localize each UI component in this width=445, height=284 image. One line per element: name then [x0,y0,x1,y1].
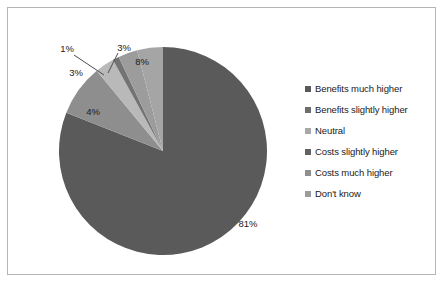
legend-item-label: Don't know [315,189,361,199]
slice-label-4: 4% [86,106,100,117]
pie-chart-svg[interactable]: 81% 8% 3% 1% 3% 4% [52,33,282,273]
slice-label-3b: 3% [117,42,131,53]
legend-swatch-icon [305,128,311,134]
legend-item-label: Costs much higher [315,168,393,178]
legend-swatch-icon [305,191,311,197]
slice-label-8: 8% [135,56,149,67]
chart-frame: 81% 8% 3% 1% 3% 4% Benefits much higher … [7,7,436,275]
slice-label-3a: 3% [69,67,83,78]
legend-item-label: Benefits much higher [315,84,402,94]
legend-swatch-icon [305,149,311,155]
legend-swatch-icon [305,107,311,113]
legend-item-label: Costs slightly higher [315,147,398,157]
slice-label-1: 1% [60,43,74,54]
slice-label-81: 81% [238,218,258,229]
legend-item-benefits-much-higher[interactable]: Benefits much higher [305,78,437,99]
pie-slices[interactable] [59,47,267,255]
legend-item-benefits-slightly-higher[interactable]: Benefits slightly higher [305,99,437,120]
legend-item-costs-much-higher[interactable]: Costs much higher [305,162,437,183]
legend-item-dont-know[interactable]: Don't know [305,183,437,204]
legend: Benefits much higher Benefits slightly h… [305,78,437,204]
legend-swatch-icon [305,170,311,176]
legend-item-neutral[interactable]: Neutral [305,120,437,141]
legend-item-costs-slightly-higher[interactable]: Costs slightly higher [305,141,437,162]
pie-chart-area: 81% 8% 3% 1% 3% 4% [52,33,282,273]
legend-item-label: Benefits slightly higher [315,105,408,115]
legend-item-label: Neutral [315,126,345,136]
legend-swatch-icon [305,86,311,92]
